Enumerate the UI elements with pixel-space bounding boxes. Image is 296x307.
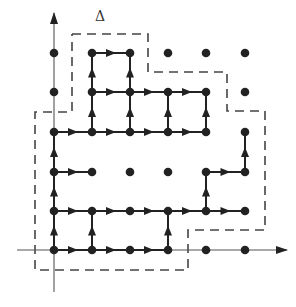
lattice-point (50, 128, 59, 137)
edge-arrow-icon (144, 88, 154, 96)
dashed-boundary-delta (35, 34, 265, 270)
lattice-point (126, 49, 135, 58)
lattice-point (164, 88, 173, 97)
edge-arrow-icon (106, 128, 116, 136)
edge-arrow-icon (164, 107, 172, 117)
edge-arrow-icon (106, 88, 116, 96)
edge-arrow-icon (221, 168, 231, 176)
edge-arrow-icon (68, 128, 78, 136)
edge-arrow-icon (50, 226, 58, 236)
lattice-point (241, 49, 250, 58)
lattice-point (164, 49, 173, 58)
lattice-point (202, 88, 211, 97)
edge-arrow-icon (241, 147, 249, 157)
edge-arrow-icon (88, 68, 96, 78)
lattice-point (202, 246, 211, 255)
lattice-point (164, 207, 173, 216)
lattice-point (241, 207, 250, 216)
lattice-point (202, 207, 211, 216)
lattice-point (202, 128, 211, 137)
edge-arrow-icon (182, 128, 192, 136)
edge-arrow-icon (202, 107, 210, 117)
lattice-point (88, 128, 97, 137)
lattice-point (88, 207, 97, 216)
lattice-point (126, 207, 135, 216)
lattice-point (241, 246, 250, 255)
edge-arrow-icon (126, 107, 134, 117)
lattice-points (50, 49, 250, 255)
edge-arrow-icon (50, 147, 58, 157)
edge-arrow-icon (164, 226, 172, 236)
lattice-point (50, 88, 59, 97)
delta-label: Δ (95, 8, 105, 24)
lattice-point (88, 246, 97, 255)
dashed-boundary (35, 34, 265, 270)
lattice-point (164, 168, 173, 177)
lattice-point (126, 128, 135, 137)
lattice-point (126, 88, 135, 97)
edge-arrow-icon (144, 128, 154, 136)
edge-arrow-icon (68, 246, 78, 254)
lattice-point (88, 88, 97, 97)
lattice-point (164, 246, 173, 255)
edge-arrow-icon (68, 207, 78, 215)
edge-arrow-icon (88, 107, 96, 117)
diagram-svg (0, 0, 296, 307)
lattice-point (202, 49, 211, 58)
lattice-point (50, 207, 59, 216)
edge-arrow-icon (68, 168, 78, 176)
lattice-point (126, 246, 135, 255)
lattice-point (50, 49, 59, 58)
lattice-point (241, 168, 250, 177)
edge-arrow-icon (106, 207, 116, 215)
lattice-point (50, 168, 59, 177)
lattice-point (88, 49, 97, 58)
edge-arrow-icon (202, 187, 210, 197)
edge-arrow-icon (144, 246, 154, 254)
directed-edges (50, 49, 249, 254)
edge-arrow-icon (126, 68, 134, 78)
lattice-point (241, 88, 250, 97)
edge-arrow-icon (106, 246, 116, 254)
edge-arrow-icon (88, 226, 96, 236)
lattice-point (164, 128, 173, 137)
lattice-point (202, 168, 211, 177)
edge-arrow-icon (221, 207, 231, 215)
edge-arrow-icon (106, 49, 116, 57)
lattice-point (50, 246, 59, 255)
lattice-point (88, 168, 97, 177)
edge-arrow-icon (182, 88, 192, 96)
edge-arrow-icon (182, 207, 192, 215)
edge-arrow-icon (50, 187, 58, 197)
lattice-point (241, 128, 250, 137)
lattice-path-diagram: Δ (0, 0, 296, 307)
lattice-point (126, 168, 135, 177)
edge-arrow-icon (144, 207, 154, 215)
